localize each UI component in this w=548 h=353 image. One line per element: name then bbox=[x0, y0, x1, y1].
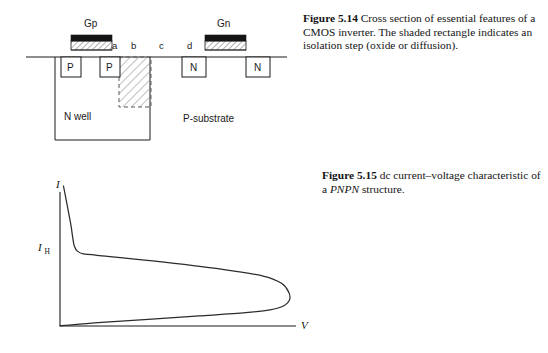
figure-5-14-caption-label: Figure 5.14 bbox=[303, 12, 358, 24]
y-axis-label: I bbox=[55, 178, 61, 190]
holding-current-label: I bbox=[37, 241, 43, 253]
isolation-region bbox=[119, 57, 151, 107]
gate-n-metal bbox=[205, 35, 246, 41]
gate-p-metal bbox=[71, 35, 112, 41]
point-label-b: b bbox=[131, 40, 136, 51]
figure-5-15-caption: Figure 5.15 dc current–voltage character… bbox=[322, 169, 542, 196]
iv-characteristic-curve bbox=[60, 186, 290, 326]
figure-5-14-caption: Figure 5.14 Cross section of essential f… bbox=[303, 12, 541, 53]
p-source-label: P bbox=[67, 62, 74, 73]
pnpn-iv-curve-chart: I V I H bbox=[10, 178, 320, 348]
n-drain-label: N bbox=[254, 62, 261, 73]
figure-5-15-caption-post: structure. bbox=[359, 183, 405, 195]
holding-current-sublabel: H bbox=[45, 247, 51, 256]
gate-n-oxide bbox=[205, 41, 246, 50]
point-label-d: d bbox=[187, 40, 192, 51]
x-axis-label: V bbox=[301, 319, 309, 331]
figure-5-15-caption-label: Figure 5.15 bbox=[322, 169, 377, 181]
cmos-cross-section-diagram: Gp Gn P P N N a b c d N well P-substrate bbox=[0, 0, 290, 160]
gate-p-label: Gp bbox=[84, 18, 98, 29]
figure-5-15: I V I H bbox=[10, 178, 320, 348]
n-source-label: N bbox=[190, 62, 197, 73]
point-label-a: a bbox=[112, 40, 118, 51]
figure-5-14: Gp Gn P P N N a b c d N well P-substrate bbox=[0, 0, 290, 160]
gate-n-label: Gn bbox=[217, 18, 230, 29]
figure-5-15-caption-italic: PNPN bbox=[330, 183, 359, 195]
p-drain-label: P bbox=[106, 62, 113, 73]
gate-p-oxide bbox=[71, 41, 112, 50]
point-label-c: c bbox=[159, 40, 164, 51]
n-well-label: N well bbox=[64, 111, 91, 122]
p-substrate-label: P-substrate bbox=[183, 113, 235, 124]
